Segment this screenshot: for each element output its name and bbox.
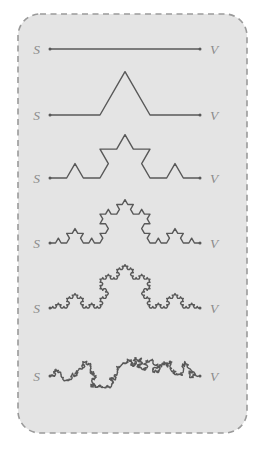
endpoint-dot-start — [49, 114, 52, 117]
endpoint-dot-end — [199, 177, 202, 180]
endpoint-dot-end — [199, 114, 202, 117]
label-start-s: S — [33, 236, 40, 251]
label-start-s: S — [33, 301, 40, 316]
endpoint-dot-end — [199, 242, 202, 245]
endpoint-dot-start — [49, 375, 52, 378]
endpoint-dot-start — [49, 177, 52, 180]
label-start-s: S — [33, 108, 40, 123]
endpoint-dot-end — [199, 375, 202, 378]
endpoint-dot-end — [199, 48, 202, 51]
endpoint-dot-start — [49, 48, 52, 51]
endpoint-dot-start — [49, 307, 52, 310]
label-start-s: S — [33, 42, 40, 57]
endpoint-dot-start — [49, 242, 52, 245]
koch-curve-figure: SVSVSVSVSVSV — [0, 0, 264, 460]
endpoint-dot-end — [199, 307, 202, 310]
label-start-s: S — [33, 171, 40, 186]
figure-canvas: SVSVSVSVSVSV — [0, 0, 264, 460]
label-start-s: S — [33, 369, 40, 384]
